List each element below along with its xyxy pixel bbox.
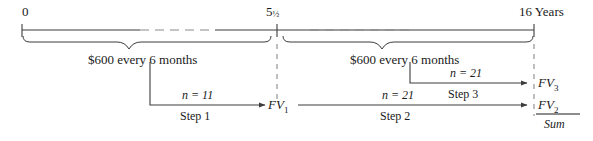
- step-3-n-label: n = 21: [450, 67, 482, 79]
- fv1-symbol: FV: [268, 97, 284, 112]
- fv3-symbol: FV: [538, 75, 554, 90]
- fv3-label: FV3: [538, 76, 558, 93]
- sum-label: Sum: [544, 118, 565, 130]
- axis-mid-label: 5½: [266, 5, 279, 19]
- brace-left: [23, 36, 271, 49]
- axis-start-label: 0: [22, 5, 29, 18]
- diagram-canvas: [0, 0, 593, 141]
- step-1-name-label: Step 1: [180, 110, 210, 122]
- fv1-subscript: 1: [284, 105, 289, 115]
- step-3-name-label: Step 3: [448, 88, 478, 100]
- axis-end-label: 16 Years: [519, 5, 564, 18]
- brace-right-label: $600 every 6 months: [350, 53, 459, 66]
- fv2-subscript: 2: [554, 105, 559, 115]
- axis-mid-fraction: ½: [273, 10, 280, 19]
- time-axis: [22, 24, 534, 37]
- fv3-subscript: 3: [554, 83, 559, 93]
- fv1-label: FV1: [268, 98, 288, 115]
- brace-right: [283, 36, 533, 49]
- brace-left-label: $600 every 6 months: [88, 53, 197, 66]
- fv2-symbol: FV: [538, 97, 554, 112]
- fv2-label: FV2: [538, 98, 558, 115]
- step-2-name-label: Step 2: [380, 110, 410, 122]
- timeline-diagram: 0 5½ 16 Years $600 every 6 months $600 e…: [0, 0, 593, 141]
- step-2-n-label: n = 21: [382, 89, 414, 101]
- step-1-n-label: n = 11: [182, 89, 213, 101]
